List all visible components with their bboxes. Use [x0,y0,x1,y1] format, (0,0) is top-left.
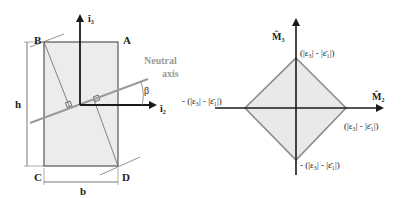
interaction-diagram: M̂₃ M̂₂ (|ε₃| - |ε̄₁|) (|ε₃| - |ε̄₁|) - … [182,20,384,175]
corner-label-a: A [123,34,131,46]
diamond-bottom-label: - (|ε₃| - |ε̄₁|) [300,160,340,170]
axis-label-i3: î₃ [87,13,94,24]
axis-label-m3: M̂₃ [272,30,284,42]
dimension-label-b: b [80,185,86,197]
beta-angle-arc [141,82,143,105]
diamond-right-label: (|ε₃| - |ε̄₁|) [344,121,379,131]
neutral-axis-label-line1: Neutral [144,55,177,66]
angle-label-beta: β [144,85,149,96]
corner-label-c: C [34,171,42,183]
dimension-label-h: h [15,98,21,110]
corner-label-b: B [34,34,42,46]
diagram-canvas: B A C D h b î₃ î₂ Neutral axis β M̂₃ M̂₂… [0,0,407,198]
axis-label-i2: î₂ [159,103,166,114]
diamond-top-label: (|ε₃| - |ε̄₁|) [300,48,335,58]
diamond-left-label: - (|ε₃| - |ε̄₁|) [182,96,222,106]
cross-section-figure: B A C D h b î₃ î₂ Neutral axis β [15,13,179,197]
axis-label-m2: M̂₂ [372,90,384,102]
neutral-axis-label-line2: axis [162,68,179,79]
corner-label-d: D [122,171,130,183]
